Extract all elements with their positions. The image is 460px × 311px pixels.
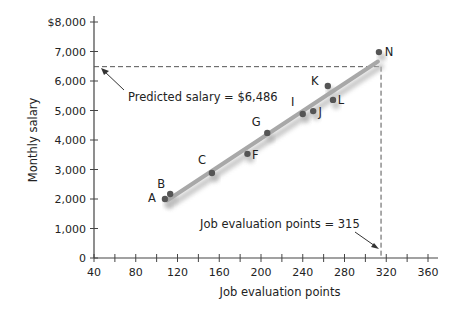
data-point [244,151,250,157]
data-point [376,49,382,55]
x-tick-label: 80 [129,266,143,279]
y-tick-label: 2,000 [55,193,87,206]
data-point [310,108,316,114]
x-tick-label: 280 [334,266,355,279]
data-points: ABCFGIJKLN [148,45,393,208]
x-tick-label: 120 [167,266,188,279]
data-point [300,111,306,117]
job-points-annotation: Job evaluation points = 315 [199,217,360,231]
y-tick-label: 4,000 [55,134,87,147]
point-label: J [317,105,321,119]
data-point [162,196,168,202]
point-label: A [148,191,156,205]
x-tick-label: 40 [87,266,101,279]
x-axis-title: Job evaluation points [219,285,341,299]
y-axis: 01,0002,0003,0004,0005,0006,0007,000$8,0… [48,16,99,265]
data-point [209,170,215,176]
data-point [167,191,173,197]
point-label: I [291,95,294,109]
point-label: C [198,153,206,167]
y-tick-label: $8,000 [48,16,87,29]
y-tick-label: 7,000 [55,46,87,59]
y-tick-label: 5,000 [55,105,87,118]
point-label: F [252,148,259,162]
x-axis: 4080120160200240280320360 [87,254,439,279]
data-point [264,130,270,136]
y-axis-title: Monthly salary [26,98,40,183]
data-point [330,97,336,103]
point-label: K [311,74,319,88]
point-label: N [385,45,394,59]
x-tick-label: 320 [376,266,397,279]
y-tick-label: 3,000 [55,164,87,177]
x-tick-label: 240 [292,266,313,279]
y-tick-label: 0 [79,252,86,265]
x-tick-label: 360 [418,266,439,279]
predicted-salary-annotation: Predicted salary = $6,486 [128,90,278,104]
x-tick-label: 160 [209,266,230,279]
y-tick-label: 1,000 [55,223,87,236]
point-label: B [157,177,165,191]
regression-line [167,62,381,206]
scatter-chart: 01,0002,0003,0004,0005,0006,0007,000$8,0… [0,0,460,311]
y-tick-label: 6,000 [55,75,87,88]
x-tick-label: 200 [251,266,272,279]
data-point [325,83,331,89]
point-label: G [252,115,261,129]
point-label: L [338,93,345,107]
